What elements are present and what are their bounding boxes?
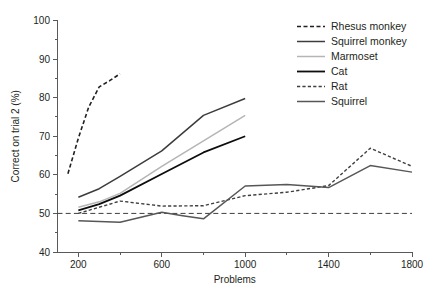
- legend-item-cat[interactable]: Cat: [297, 65, 347, 77]
- legend-label: Marmoset: [331, 50, 378, 62]
- y-axis-ticks: 405060708090100: [33, 15, 57, 258]
- legend-item-squirrel[interactable]: Squirrel: [297, 95, 367, 107]
- legend-label: Squirrel: [331, 95, 367, 107]
- series-line-squirrel-monkey: [78, 98, 245, 197]
- y-tick-label: 90: [39, 54, 51, 65]
- series-line-rhesus-monkey: [68, 74, 120, 174]
- legend-item-rat[interactable]: Rat: [297, 80, 347, 92]
- legend-item-rhesus-monkey[interactable]: Rhesus monkey: [297, 20, 407, 32]
- x-tick-label: 200: [70, 259, 87, 270]
- legend-label: Rhesus monkey: [331, 20, 407, 32]
- y-tick-label: 80: [39, 92, 51, 103]
- y-tick-label: 50: [39, 208, 51, 219]
- chart-legend: Rhesus monkeySquirrel monkeyMarmosetCatR…: [297, 20, 408, 107]
- legend-item-marmoset[interactable]: Marmoset: [297, 50, 378, 62]
- legend-item-squirrel-monkey[interactable]: Squirrel monkey: [297, 35, 408, 47]
- chart-figure: 405060708090100200600100014001800Problem…: [0, 0, 431, 297]
- x-axis-title: Problems: [214, 274, 256, 285]
- x-tick-label: 600: [153, 259, 170, 270]
- y-tick-label: 60: [39, 169, 51, 180]
- x-axis-ticks: 200600100014001800: [70, 252, 424, 270]
- y-tick-label: 40: [39, 247, 51, 258]
- legend-label: Cat: [331, 65, 347, 77]
- x-tick-label: 1000: [234, 259, 257, 270]
- x-tick-label: 1400: [317, 259, 340, 270]
- y-tick-label: 100: [33, 15, 50, 26]
- series-line-cat: [78, 136, 245, 210]
- series-line-marmoset: [78, 115, 245, 207]
- legend-label: Squirrel monkey: [331, 35, 408, 47]
- x-tick-label: 1800: [401, 259, 424, 270]
- y-tick-label: 70: [39, 131, 51, 142]
- legend-label: Rat: [331, 80, 347, 92]
- series-line-rat: [78, 148, 412, 213]
- line-chart: 405060708090100200600100014001800Problem…: [0, 0, 431, 297]
- y-axis-title: Correct on trial 2 (%): [10, 90, 21, 182]
